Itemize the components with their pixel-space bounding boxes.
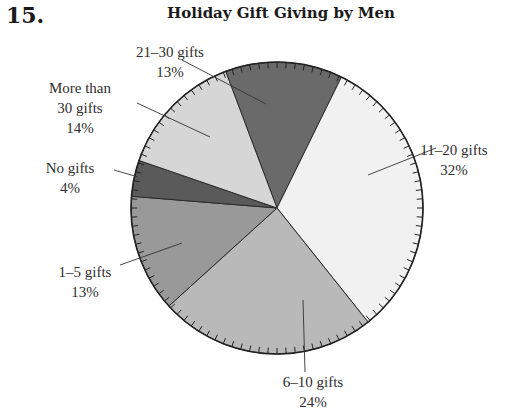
label-1-5: 1–5 gifts13%	[40, 262, 130, 302]
label-11-20: 11–20 gifts32%	[404, 140, 504, 180]
pie-slices	[131, 62, 423, 354]
label-21-30: 21–30 gifts13%	[110, 42, 230, 82]
label-6-10: 6–10 gifts24%	[258, 372, 368, 412]
pie-chart	[0, 0, 506, 420]
label-30plus: More than30 gifts14%	[15, 78, 145, 138]
label-no-gifts: No gifts4%	[20, 158, 120, 198]
